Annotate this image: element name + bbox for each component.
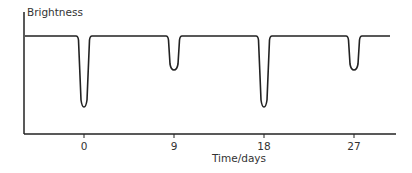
x-axis-label: Time/days bbox=[212, 152, 266, 164]
brightness-curve bbox=[25, 36, 390, 107]
x-tick-label: 9 bbox=[171, 140, 178, 152]
x-tick-label: 18 bbox=[257, 140, 270, 152]
y-axis-label: Brightness bbox=[27, 6, 83, 18]
x-tick-label: 27 bbox=[347, 140, 360, 152]
x-tick-label: 0 bbox=[81, 140, 88, 152]
